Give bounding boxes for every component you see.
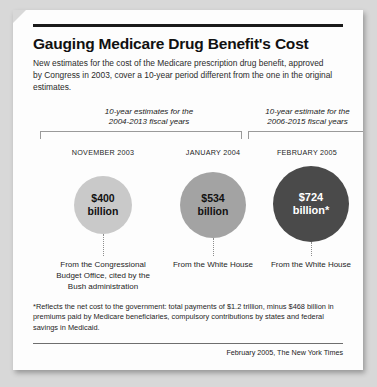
leader-line-2 — [213, 238, 214, 256]
group-headers: 10-year estimates for the 2004-2013 fisc… — [33, 107, 343, 147]
group-header-right-line1: 10-year estimate for the — [245, 107, 363, 118]
group-header-left-line1: 10-year estimates for the — [61, 107, 237, 118]
group-header-left-line2: 2004-2013 fiscal years — [61, 117, 237, 128]
estimate-circle-2: $534 billion — [180, 172, 246, 238]
circle-wrap-3: $724 billion* — [259, 166, 363, 250]
estimate-amount-3: $724 — [299, 191, 323, 203]
infographic-root: Gauging Medicare Drug Benefit's Cost New… — [0, 0, 377, 387]
source-line: February 2005, The New York Times — [33, 348, 343, 357]
date-label-january-2004: JANUARY 2004 — [163, 148, 263, 157]
group-header-left: 10-year estimates for the 2004-2013 fisc… — [61, 107, 237, 128]
circle-wrap-1: $400 billion — [51, 166, 155, 250]
page-corner-fold — [13, 10, 26, 23]
estimate-unit-2: billion — [198, 205, 229, 217]
leader-line-1 — [103, 234, 104, 256]
date-label-february-2005: FEBRUARY 2005 — [257, 148, 357, 157]
group-bracket-right — [248, 131, 363, 139]
estimate-caption-2: From the White House — [161, 259, 265, 270]
estimate-circle-1: $400 billion — [74, 176, 132, 234]
estimate-amount-2: $534 — [201, 192, 224, 204]
circle-wrap-2: $534 billion — [161, 166, 265, 250]
estimate-columns: $400 billion From the Congressional Budg… — [33, 166, 343, 301]
group-header-right-line2: 2006-2015 fiscal years — [245, 117, 363, 128]
page-subtitle: New estimates for the cost of the Medica… — [33, 58, 333, 94]
group-bracket-left — [40, 131, 242, 139]
estimate-unit-1: billion — [88, 205, 119, 217]
estimate-unit-3: billion* — [293, 204, 330, 216]
infographic-card: Gauging Medicare Drug Benefit's Cost New… — [13, 10, 363, 370]
date-label-november-2003: NOVEMBER 2003 — [53, 148, 153, 157]
estimate-column-1: $400 billion From the Congressional Budg… — [51, 166, 155, 292]
footnote: *Reflects the net cost to the government… — [33, 302, 335, 334]
estimate-caption-3: From the White House — [259, 259, 363, 270]
estimate-column-3: $724 billion* From the White House — [259, 166, 363, 270]
estimate-column-2: $534 billion From the White House — [161, 166, 265, 270]
estimate-caption-1: From the Congressional Budget Office, ci… — [51, 259, 155, 292]
infographic-content: Gauging Medicare Drug Benefit's Cost New… — [33, 24, 343, 357]
estimate-amount-1: $400 — [91, 192, 114, 204]
leader-line-3 — [311, 242, 312, 256]
group-header-right: 10-year estimate for the 2006-2015 fisca… — [245, 107, 363, 128]
page-title: Gauging Medicare Drug Benefit's Cost — [33, 35, 343, 53]
estimate-circle-3: $724 billion* — [273, 166, 349, 242]
date-labels: NOVEMBER 2003 JANUARY 2004 FEBRUARY 2005 — [33, 148, 343, 162]
top-divider — [33, 24, 343, 27]
bottom-divider — [33, 343, 343, 344]
